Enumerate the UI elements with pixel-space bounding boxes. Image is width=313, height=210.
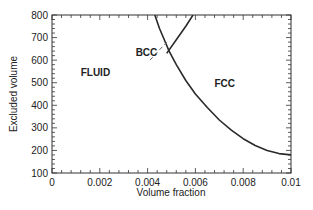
x-tick-label: 0.01 bbox=[281, 177, 301, 188]
y-tick-label: 100 bbox=[31, 168, 48, 179]
y-tick-label: 200 bbox=[31, 145, 48, 156]
y-tick-label: 600 bbox=[31, 55, 48, 66]
y-tick-label: 700 bbox=[31, 32, 48, 43]
region-labels: FLUIDBCCFCC bbox=[81, 47, 235, 90]
plot-axes: 00.0020.0040.0060.0080.01100200300400500… bbox=[31, 10, 301, 189]
x-tick-label: 0 bbox=[49, 177, 55, 188]
x-tick-label: 0.002 bbox=[87, 177, 112, 188]
region-label-fcc: FCC bbox=[215, 78, 236, 89]
region-label-fluid: FLUID bbox=[81, 67, 110, 78]
y-axis-title: Excluded volume bbox=[8, 55, 19, 132]
phase-diagram-chart: 00.0020.0040.0060.0080.01100200300400500… bbox=[0, 0, 313, 210]
y-tick-label: 800 bbox=[31, 10, 48, 21]
x-tick-label: 0.008 bbox=[231, 177, 256, 188]
y-tick-label: 300 bbox=[31, 122, 48, 133]
plot-frame bbox=[52, 15, 291, 173]
y-tick-label: 500 bbox=[31, 77, 48, 88]
x-axis-title: Volume fraction bbox=[137, 187, 206, 198]
bcc-fcc-boundary-line bbox=[167, 15, 193, 53]
region-label-bcc: BCC bbox=[136, 47, 158, 58]
y-tick-label: 400 bbox=[31, 100, 48, 111]
